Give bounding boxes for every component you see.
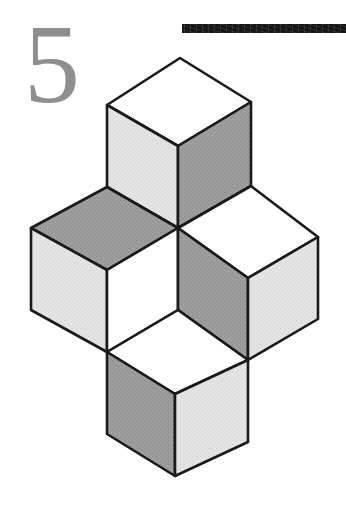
isometric-cubes-svg: [0, 0, 346, 515]
chapter-opener-page: 5: [0, 0, 346, 515]
isometric-cubes-figure: [0, 0, 346, 515]
